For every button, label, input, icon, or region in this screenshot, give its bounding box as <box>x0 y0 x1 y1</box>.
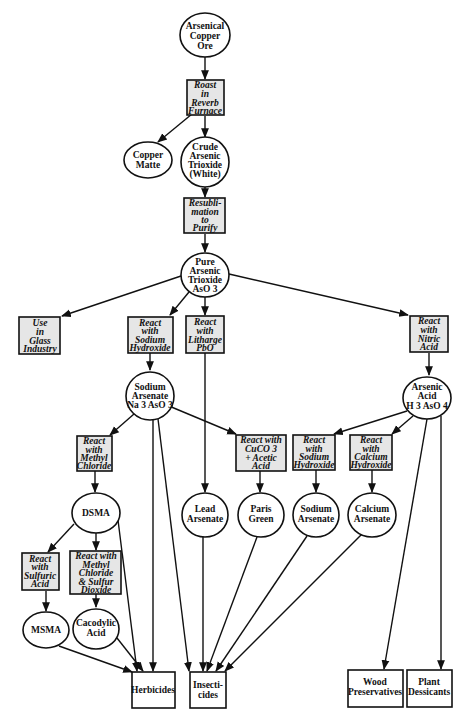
node-crude-arsenic-trioxide: CrudeArsenicTrioxide(White) <box>181 137 229 187</box>
node-use-in-glass-industry: UseinGlassIndustry <box>19 317 60 354</box>
svg-text:Herbicides: Herbicides <box>131 685 175 695</box>
svg-text:ReactwithNitricAcid: ReactwithNitricAcid <box>417 316 441 352</box>
edge-paris-insect <box>207 537 257 671</box>
node-dsma: DSMA <box>72 493 120 533</box>
edge-pure-naoh1 <box>170 292 189 315</box>
node-react-sulfuric-acid: ReactwithSulfuricAcid <box>22 553 59 590</box>
node-arsenical-copper-ore: ArsenicalCopperOre <box>180 13 230 57</box>
node-lead-arsenate: LeadArsenate <box>182 493 228 537</box>
svg-text:SodiumArsenate: SodiumArsenate <box>298 504 334 524</box>
svg-text:CalciumArsenate: CalciumArsenate <box>354 504 390 524</box>
node-herbicides: Herbicides <box>131 672 175 708</box>
node-sodium-arsenate-2: SodiumArsenate <box>293 493 339 537</box>
node-wood-preservatives: WoodPreservatives <box>348 670 403 707</box>
node-arsenic-acid: ArsenicAcidH 3 AsO 4 <box>403 377 451 419</box>
node-react-litharge-pbo: ReactwithLithargePbO <box>186 316 224 353</box>
edge-roast-matte <box>158 114 192 142</box>
svg-text:CrudeArsenicTrioxide(White): CrudeArsenicTrioxide(White) <box>188 142 222 180</box>
edge-caars-insect <box>225 534 362 671</box>
node-pure-arsenic-trioxide: PureArsenicTrioxideAsO 3 <box>181 253 229 297</box>
node-roast-in-reverb-furnace: RoastinReverbFurnace <box>187 80 224 116</box>
node-react-calcium-hydroxide: ReactwithCalciumHydroxide <box>349 435 392 470</box>
edge-acid-caoh <box>392 416 413 434</box>
node-react-sodium-hydroxide-2: ReactwithSodiumHydroxide <box>292 435 335 470</box>
node-cacodylic-acid: CacodylicAcid <box>73 609 119 649</box>
edge-naars-insect <box>158 419 189 671</box>
edge-pure-nitric <box>229 274 408 315</box>
node-insecticides: Insecti-cides <box>190 672 226 708</box>
node-resublimation: Resubli-mationtoPurify <box>184 198 225 233</box>
svg-text:DSMA: DSMA <box>82 508 110 518</box>
node-react-sodium-hydroxide-1: ReactwithSodiumHydroxide <box>128 317 173 353</box>
node-calcium-arsenate: CalciumArsenate <box>348 493 396 537</box>
node-copper-matte: CopperMatte <box>124 142 172 178</box>
edge-caco-herb <box>117 638 143 671</box>
diagram-svg: ArsenicalCopperOre RoastinReverbFurnace … <box>0 0 469 719</box>
svg-text:CopperMatte: CopperMatte <box>133 150 164 170</box>
node-plant-dessicants: PlantDessicants <box>407 670 452 707</box>
edge-naars-cuco3 <box>169 406 236 434</box>
svg-text:MSMA: MSMA <box>31 625 61 635</box>
node-react-nitric-acid: ReactwithNitricAcid <box>410 316 448 352</box>
edge-naars-mecl <box>110 414 134 435</box>
node-react-methyl-chloride-sulfur-dioxide: React withMethylChloride& SulfurDioxide <box>70 551 121 595</box>
node-paris-green: ParisGreen <box>238 493 284 537</box>
svg-text:ParisGreen: ParisGreen <box>248 504 274 524</box>
edge-dsma-sulf <box>48 524 74 552</box>
edge-msma-herb <box>59 646 132 672</box>
edge-pure-glass <box>62 276 181 316</box>
node-react-methyl-chloride: ReactwithMethylChloride <box>77 436 112 471</box>
node-react-cuco3-acetic-acid: React withCuCO 3+ AceticAcid <box>236 435 286 471</box>
svg-text:Resubli-mationtoPurify: Resubli-mationtoPurify <box>188 198 222 233</box>
arsenic-flow-diagram: ArsenicalCopperOre RoastinReverbFurnace … <box>0 0 469 719</box>
node-sodium-arsenate: SodiumArsenateNa 3 AsO 3 <box>126 372 174 420</box>
svg-text:React withMethylChloride& Sulf: React withMethylChloride& SulfurDioxide <box>74 551 116 595</box>
edge-dsma-herb <box>118 520 137 671</box>
node-msma: MSMA <box>23 612 69 648</box>
